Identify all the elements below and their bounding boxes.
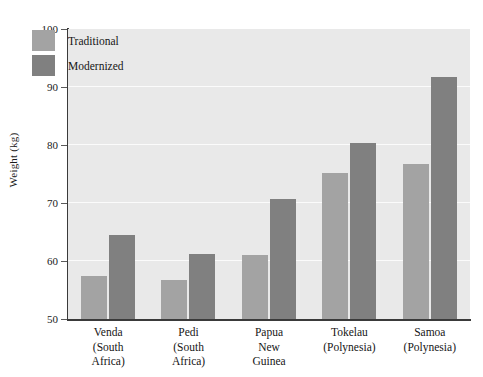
x-axis-category-line: Africa): [62, 354, 154, 369]
bar-traditional: [403, 164, 429, 319]
y-axis-title-label: Weight (kg): [7, 132, 19, 187]
y-axis-title: Weight (kg): [0, 0, 26, 319]
bar-modernized: [270, 199, 296, 319]
y-axis-tick-label: 50: [47, 313, 58, 324]
bar-traditional: [322, 173, 348, 319]
y-axis-tick-label: 70: [47, 197, 58, 208]
x-axis-category-label: Venda(SouthAfrica): [62, 325, 154, 369]
x-axis-category-line: Papua: [223, 325, 315, 340]
x-axis-category-line: (South: [62, 340, 154, 355]
bar-group: [309, 29, 389, 319]
y-axis-tick-label: 60: [47, 255, 58, 266]
bar-chart-figure: Weight (kg) 5060708090100 TraditionalMod…: [0, 0, 483, 377]
bar-traditional: [242, 255, 268, 319]
x-axis-category-label: PapuaNewGuinea: [223, 325, 315, 369]
legend-item-modernized[interactable]: Modernized: [32, 55, 124, 76]
legend-swatch-icon: [32, 55, 55, 76]
bar-group: [390, 29, 470, 319]
x-axis-category-line: Guinea: [223, 354, 315, 369]
x-axis-category-line: Venda: [62, 325, 154, 340]
x-axis-category-line: (Polynesia): [303, 340, 395, 355]
x-axis-category-line: Africa): [143, 354, 235, 369]
bar-group: [148, 29, 228, 319]
bar-modernized: [189, 254, 215, 319]
bar-traditional: [161, 280, 187, 319]
bar-modernized: [350, 143, 376, 319]
x-axis-category-label: Tokelau(Polynesia): [303, 325, 395, 354]
bar-modernized: [431, 77, 457, 319]
y-axis-tick-label: 90: [47, 81, 58, 92]
x-axis-category-label: Pedi(SouthAfrica): [143, 325, 235, 369]
legend-swatch-icon: [32, 30, 55, 51]
x-axis-category-line: Pedi: [143, 325, 235, 340]
plot-area: [68, 29, 470, 319]
x-axis-category-line: (South: [143, 340, 235, 355]
x-axis-category-line: (Polynesia): [384, 340, 476, 355]
x-axis-category-line: Tokelau: [303, 325, 395, 340]
legend-item-traditional[interactable]: Traditional: [32, 30, 119, 51]
legend-label: Modernized: [68, 60, 124, 72]
x-axis-categories: Venda(SouthAfrica)Pedi(SouthAfrica)Papua…: [68, 325, 470, 375]
bar-group: [229, 29, 309, 319]
y-axis-tick-label: 80: [47, 139, 58, 150]
bar-modernized: [109, 235, 135, 319]
x-axis-category-line: New: [223, 340, 315, 355]
legend-label: Traditional: [68, 35, 119, 47]
bar-traditional: [81, 276, 107, 320]
x-axis-category-label: Samoa(Polynesia): [384, 325, 476, 354]
x-axis-line: [67, 319, 471, 321]
x-axis-category-line: Samoa: [384, 325, 476, 340]
